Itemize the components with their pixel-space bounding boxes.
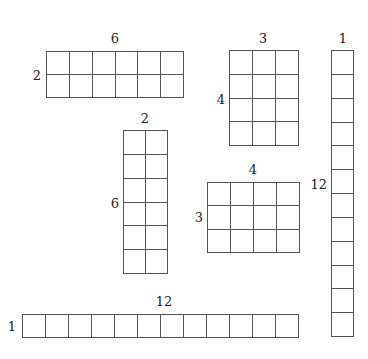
grid-cell: [331, 50, 353, 74]
grid-cell: [145, 202, 167, 226]
grid-cell: [331, 122, 353, 146]
array-6-by-2: [46, 51, 184, 98]
grid-cell: [160, 314, 183, 337]
height-label-6x2: 2: [33, 69, 41, 82]
width-label-2x6: 2: [141, 112, 149, 125]
grid-cell: [22, 314, 45, 337]
grid-cell: [276, 182, 299, 205]
grid-cell: [123, 225, 145, 249]
grid-cell: [331, 241, 353, 265]
grid-cell: [252, 98, 275, 122]
grid-cell: [206, 314, 229, 337]
array-1-by-12: [331, 50, 354, 337]
grid-cell: [123, 130, 145, 154]
grid-cell: [229, 74, 252, 98]
grid-cell: [92, 51, 115, 74]
height-label-3x4: 4: [217, 93, 225, 106]
grid-cell: [45, 314, 68, 337]
grid-cell: [137, 74, 160, 97]
grid-cell: [253, 182, 276, 205]
grid-cell: [331, 98, 353, 122]
grid-cell: [331, 217, 353, 241]
grid-cell: [160, 74, 183, 97]
grid-cell: [331, 169, 353, 193]
grid-cell: [229, 314, 252, 337]
grid-cell: [115, 74, 138, 97]
grid-cell: [229, 98, 252, 122]
grid-cell: [230, 182, 253, 205]
grid-cell: [252, 121, 275, 145]
grid-cell: [275, 50, 298, 74]
grid-cell: [46, 74, 69, 97]
width-label-12x1: 12: [156, 295, 173, 308]
grid-cell: [123, 249, 145, 273]
grid-cell: [207, 205, 230, 228]
grid-cell: [207, 182, 230, 205]
grid-cell: [207, 229, 230, 252]
height-label-4x3: 3: [195, 211, 203, 224]
grid-cell: [91, 314, 114, 337]
grid-cell: [183, 314, 206, 337]
grid-cell: [275, 121, 298, 145]
grid-cell: [123, 154, 145, 178]
grid-cell: [230, 229, 253, 252]
array-3-by-4: [229, 50, 299, 146]
height-label-12x1: 1: [8, 320, 16, 333]
grid-cell: [276, 229, 299, 252]
grid-cell: [331, 145, 353, 169]
grid-cell: [145, 249, 167, 273]
width-label-1x12: 1: [339, 32, 347, 45]
grid-cell: [275, 98, 298, 122]
grid-cell: [276, 205, 299, 228]
width-label-6x2: 6: [111, 32, 119, 45]
grid-cell: [145, 178, 167, 202]
grid-cell: [331, 312, 353, 336]
grid-cell: [137, 314, 160, 337]
grid-cell: [252, 314, 275, 337]
height-label-1x12: 12: [310, 178, 327, 191]
grid-cell: [123, 202, 145, 226]
grid-cell: [253, 205, 276, 228]
array-12-by-1: [22, 314, 299, 338]
array-2-by-6: [123, 130, 168, 274]
grid-cell: [331, 193, 353, 217]
grid-cell: [69, 51, 92, 74]
grid-cell: [229, 121, 252, 145]
grid-cell: [145, 130, 167, 154]
grid-cell: [252, 74, 275, 98]
grid-cell: [69, 74, 92, 97]
grid-cell: [252, 50, 275, 74]
grid-cell: [145, 225, 167, 249]
grid-cell: [253, 229, 276, 252]
grid-cell: [137, 51, 160, 74]
grid-cell: [230, 205, 253, 228]
grid-cell: [92, 74, 115, 97]
width-label-3x4: 3: [259, 32, 267, 45]
grid-cell: [331, 265, 353, 289]
height-label-2x6: 6: [111, 197, 119, 210]
grid-cell: [229, 50, 252, 74]
grid-cell: [114, 314, 137, 337]
grid-cell: [145, 154, 167, 178]
grid-cell: [331, 74, 353, 98]
grid-cell: [160, 51, 183, 74]
array-4-by-3: [207, 182, 300, 253]
grid-cell: [68, 314, 91, 337]
grid-cell: [123, 178, 145, 202]
grid-cell: [275, 74, 298, 98]
grid-cell: [275, 314, 298, 337]
grid-cell: [115, 51, 138, 74]
width-label-4x3: 4: [249, 163, 257, 176]
grid-cell: [331, 288, 353, 312]
grid-cell: [46, 51, 69, 74]
